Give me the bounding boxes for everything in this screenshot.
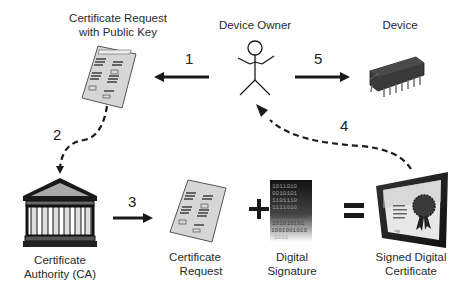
device-label: Device — [370, 18, 430, 32]
step-number-5: 5 — [314, 50, 322, 67]
diagram-canvas: 1011010 0010101 1101110 1111010 11000050… — [0, 0, 460, 292]
svg-text:1011010: 1011010 — [272, 183, 298, 190]
svg-text:1010: 1010 — [274, 234, 289, 241]
stick-figure-icon — [238, 41, 274, 95]
step-number-4: 4 — [340, 117, 348, 134]
svg-text:sig: sig — [394, 228, 400, 233]
ca-label: Certificate Authority (CA) — [10, 253, 110, 281]
digital-signature-label: Digital Signature — [262, 250, 322, 278]
bank-building-icon — [23, 178, 97, 247]
dashed-arrow-step-2 — [56, 106, 107, 174]
step-number-1: 1 — [185, 50, 193, 67]
svg-text:1111010: 1111010 — [272, 204, 298, 211]
framed-certificate-icon: sig — [376, 172, 448, 248]
device-owner-label: Device Owner — [210, 18, 300, 32]
arrow-step-5 — [295, 72, 350, 82]
binary-data-icon: 1011010 0010101 1101110 1111010 11000050… — [270, 180, 312, 242]
svg-text:1100005000: 1100005000 — [271, 213, 307, 220]
document-form-icon — [170, 180, 226, 242]
step-number-3: 3 — [128, 193, 136, 210]
dashed-arrow-step-4 — [256, 104, 411, 169]
plus-operator-icon — [249, 199, 269, 219]
microchip-icon — [370, 57, 424, 97]
svg-text:1001001010: 1001001010 — [271, 227, 307, 234]
arrow-step-3 — [113, 213, 153, 223]
signed-cert-label: Signed Digital Certificate — [366, 250, 456, 278]
equals-operator-icon — [344, 203, 364, 218]
svg-text:1101110: 1101110 — [272, 197, 298, 204]
cert-request-label: Certificate Request — [155, 250, 235, 278]
step-number-2: 2 — [53, 126, 61, 143]
document-form-icon — [82, 46, 136, 108]
svg-text:0010101: 0010101 — [272, 190, 298, 197]
arrow-step-1 — [154, 72, 209, 82]
svg-text:101010101: 101010101 — [272, 220, 305, 227]
cert-request-pubkey-label: Certificate Request with Public Key — [58, 11, 178, 39]
